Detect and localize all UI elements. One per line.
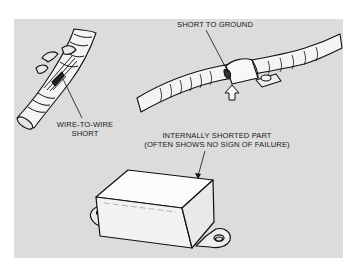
wire-to-wire-harness-illustration	[15, 29, 96, 131]
callout-line: WIRE-TO-WIRE	[52, 120, 118, 129]
short-to-ground-leader-line	[206, 30, 228, 72]
callout-line: INTERNALLY SHORTED PART	[133, 131, 301, 140]
callout-wire-to-wire-short: WIRE-TO-WIRE SHORT	[52, 120, 118, 138]
internal-part-leader-arrow	[195, 151, 205, 179]
callout-line: SHORT	[52, 129, 118, 138]
internally-shorted-part-illustration	[90, 170, 230, 248]
callout-internally-shorted-part: INTERNALLY SHORTED PART (OFTEN SHOWS NO …	[133, 131, 301, 149]
wire-to-wire-leader-line	[63, 79, 82, 118]
short-to-ground-harness-illustration	[137, 34, 342, 112]
callout-short-to-ground: SHORT TO GROUND	[165, 20, 265, 29]
callout-line: (OFTEN SHOWS NO SIGN OF FAILURE)	[133, 140, 301, 149]
callout-line: SHORT TO GROUND	[165, 20, 265, 29]
